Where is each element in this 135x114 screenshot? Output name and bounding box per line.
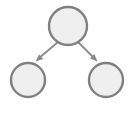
edge-line-root-to-left (39, 42, 59, 59)
node-circle-child-right (89, 63, 123, 97)
node-circle-child-left (11, 63, 45, 97)
edge-line-root-to-right (78, 42, 95, 59)
node-child-right[interactable] (89, 63, 123, 97)
node-child-left[interactable] (11, 63, 45, 97)
edge-root-to-right[interactable] (78, 42, 98, 62)
node-circle-root (49, 7, 87, 45)
diagram-svg (0, 0, 135, 114)
node-root[interactable] (49, 7, 87, 45)
node-group (11, 7, 123, 97)
diagram-canvas (0, 0, 135, 114)
edge-root-to-left[interactable] (36, 42, 59, 62)
